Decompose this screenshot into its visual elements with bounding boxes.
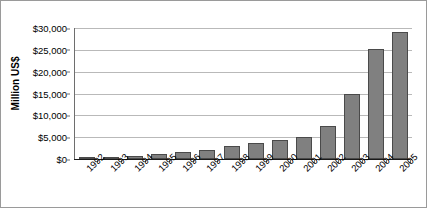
bar-2003[interactable] — [344, 94, 360, 160]
x-label-slot: 2003 — [339, 164, 363, 208]
bar-slot — [268, 28, 292, 159]
y-axis-tick-label: $20,000 — [33, 66, 67, 77]
chart-container: Million US$ $0$5,000$10,000$15,000$20,00… — [0, 0, 427, 208]
y-axis-tick-label: $25,000 — [33, 44, 67, 55]
bar-slot — [171, 28, 195, 159]
y-axis-tick-label: $5,000 — [38, 132, 67, 143]
bar-slot — [195, 28, 219, 159]
x-label-slot: 1996 — [170, 164, 194, 208]
y-axis-tick-labels: $0$5,000$10,000$15,000$20,000$25,000$30,… — [23, 1, 71, 208]
y-axis-title-text: Million US$ — [11, 57, 22, 111]
y-axis-tick-mark — [67, 159, 70, 160]
x-label-slot: 1997 — [194, 164, 218, 208]
x-label-slot: 2001 — [291, 164, 315, 208]
bar-2002[interactable] — [320, 126, 336, 159]
y-axis-tick-mark — [67, 94, 70, 95]
x-label-slot: 2000 — [267, 164, 291, 208]
bar-slot — [123, 28, 147, 159]
bar-slot — [364, 28, 388, 159]
bar-series — [75, 28, 412, 159]
x-label-slot: 1994 — [122, 164, 146, 208]
x-label-slot: 1992 — [74, 164, 98, 208]
y-axis-tick-mark — [67, 28, 70, 29]
y-axis-tick-label: $0 — [56, 154, 67, 165]
y-axis-tick-label: $30,000 — [33, 23, 67, 34]
x-label-slot: 1999 — [243, 164, 267, 208]
x-label-slot: 1998 — [218, 164, 242, 208]
bar-slot — [244, 28, 268, 159]
y-axis-tick-label: $15,000 — [33, 88, 67, 99]
bar-slot — [292, 28, 316, 159]
y-axis-tick-mark — [67, 50, 70, 51]
x-label-slot: 2002 — [315, 164, 339, 208]
y-axis-tick-mark — [67, 137, 70, 138]
bar-slot — [147, 28, 171, 159]
x-label-slot: 1995 — [146, 164, 170, 208]
y-axis-tick-mark — [67, 115, 70, 116]
bar-slot — [340, 28, 364, 159]
x-label-slot: 1993 — [98, 164, 122, 208]
plot-area — [74, 28, 412, 160]
bar-slot — [219, 28, 243, 159]
x-axis-tick-labels: 1992199319941995199619971998199920002001… — [74, 164, 411, 208]
bar-slot — [99, 28, 123, 159]
x-label-slot: 2005 — [387, 164, 411, 208]
bar-2005[interactable] — [392, 32, 408, 159]
bar-2004[interactable] — [368, 49, 384, 159]
bar-slot — [75, 28, 99, 159]
y-axis-tick-label: $10,000 — [33, 110, 67, 121]
y-axis-tick-mark — [67, 72, 70, 73]
bar-slot — [316, 28, 340, 159]
x-label-slot: 2004 — [363, 164, 387, 208]
bar-slot — [388, 28, 412, 159]
